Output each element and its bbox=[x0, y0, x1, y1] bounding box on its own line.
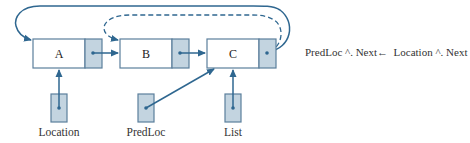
pointer-list: List bbox=[224, 70, 243, 138]
node-a-label: A bbox=[55, 47, 64, 61]
node-c-label: C bbox=[229, 47, 237, 61]
pointer-predloc: PredLoc bbox=[127, 69, 214, 138]
linked-list-diagram: A B C Location PredLoc List Pre bbox=[0, 0, 470, 143]
location-label: Location bbox=[39, 126, 80, 138]
predloc-label: PredLoc bbox=[127, 126, 166, 138]
node-c: C bbox=[207, 39, 276, 68]
node-b: B bbox=[120, 39, 189, 68]
predloc-arrow bbox=[146, 69, 214, 108]
list-label: List bbox=[224, 126, 243, 138]
assignment-statement: PredLoc ^. Next← Location ^. Next bbox=[305, 46, 467, 58]
pointer-location: Location bbox=[39, 70, 80, 138]
node-b-label: B bbox=[142, 47, 150, 61]
node-a: A bbox=[33, 39, 102, 68]
